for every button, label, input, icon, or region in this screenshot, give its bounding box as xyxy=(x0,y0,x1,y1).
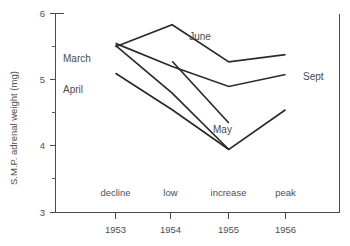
y-tick-label-4: 4 xyxy=(40,140,45,151)
y-tick-label-5: 5 xyxy=(40,74,45,85)
series-label-march: March xyxy=(63,53,91,64)
chart-axes xyxy=(56,14,340,213)
series-label-sept: Sept xyxy=(303,71,324,82)
y-tick-label-3: 3 xyxy=(40,207,45,218)
series-line-sept xyxy=(116,43,286,86)
x-tick-label-1953: 1953 xyxy=(105,224,126,235)
chart-figure: 6 5 4 3 S.M.P. adrenal weight (mg) 1953 … xyxy=(0,0,350,246)
series-label-april: April xyxy=(63,84,83,95)
series-line-april xyxy=(116,73,229,149)
y-axis-ticks xyxy=(50,14,56,213)
series-line-march xyxy=(116,45,286,149)
phase-label-decline: decline xyxy=(100,187,130,198)
series-label-june: June xyxy=(189,31,211,42)
y-tick-label-6: 6 xyxy=(40,8,45,19)
x-tick-label-1955: 1955 xyxy=(218,224,239,235)
x-axis-tick-labels: 1953 1954 1955 1956 xyxy=(105,224,296,235)
y-axis-tick-labels: 6 5 4 3 xyxy=(40,8,45,218)
phase-label-peak: peak xyxy=(275,187,296,198)
x-tick-label-1956: 1956 xyxy=(275,224,296,235)
series-lines-group xyxy=(116,25,286,150)
series-label-may: May xyxy=(213,124,232,135)
line-chart-svg: 6 5 4 3 S.M.P. adrenal weight (mg) 1953 … xyxy=(0,0,350,246)
x-tick-label-1954: 1954 xyxy=(160,224,181,235)
x-axis-ticks xyxy=(116,213,286,220)
series-line-may xyxy=(172,61,229,123)
y-axis-title: S.M.P. adrenal weight (mg) xyxy=(8,71,19,185)
series-annotations: June Sept March April May xyxy=(63,31,324,135)
phase-label-increase: increase xyxy=(211,187,247,198)
phase-label-low: low xyxy=(163,187,177,198)
phase-labels: decline low increase peak xyxy=(100,187,296,198)
